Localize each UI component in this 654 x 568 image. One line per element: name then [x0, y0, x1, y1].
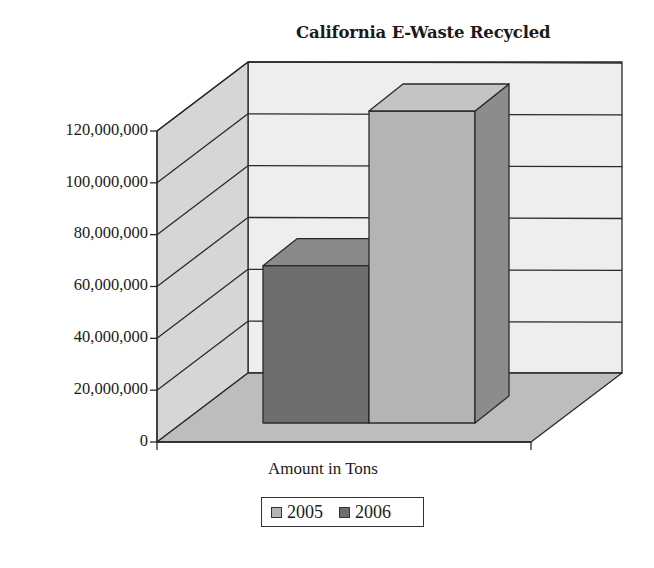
y-tick-label: 60,000,000 — [74, 277, 148, 294]
bar-front-2006 — [263, 266, 369, 423]
y-tick-label: 0 — [140, 433, 148, 450]
legend-swatch-icon — [339, 507, 350, 518]
chart: California E-Waste Recycled 0 20,000,000… — [0, 0, 654, 568]
bar-side-2005 — [475, 84, 509, 423]
bar-front-2005 — [369, 111, 475, 423]
legend-swatch-icon — [271, 507, 282, 518]
legend-item-2005: 2005 — [271, 502, 323, 523]
legend: 2005 2006 — [261, 497, 424, 527]
legend-label: 2005 — [287, 502, 323, 523]
legend-label: 2006 — [355, 502, 391, 523]
y-tick-label: 100,000,000 — [66, 174, 149, 191]
y-tick-label: 20,000,000 — [74, 381, 148, 398]
y-tick-label: 80,000,000 — [74, 225, 148, 242]
legend-item-2006: 2006 — [339, 502, 391, 523]
y-tick-label: 120,000,000 — [66, 122, 149, 139]
x-axis-label: Amount in Tons — [268, 459, 378, 479]
y-tick-label: 40,000,000 — [74, 329, 148, 346]
